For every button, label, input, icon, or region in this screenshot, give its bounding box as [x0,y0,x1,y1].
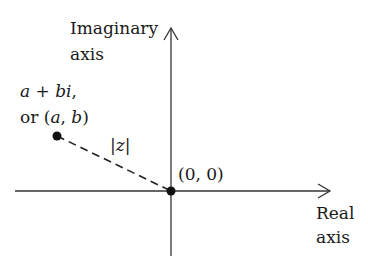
modulus-label: |z| [110,135,130,155]
point-label-plus: + [30,81,55,101]
point-label-close: ) [82,107,89,127]
point-label-line1: a + bi, [20,81,77,101]
imaginary-axis-label-line1: Imaginary [70,18,159,38]
point-label-bi: bi [55,81,71,101]
point-label-coord-a: a [50,107,60,127]
modulus-bar-right: | [125,135,131,155]
point-label-comma: , [72,81,77,101]
origin-dot [167,187,176,196]
real-axis-label-line1: Real [316,203,354,223]
complex-plane-diagram: Imaginary axis a + bi, or (a, b) |z| (0,… [0,0,368,269]
point-label-coord-b: b [71,107,82,127]
origin-label: (0, 0) [178,164,224,184]
imaginary-axis [164,28,178,256]
imaginary-axis-label-line2: axis [70,44,104,64]
point-label-a: a [20,81,30,101]
point-label-line2: or (a, b) [20,107,89,127]
point-label-or: or ( [20,107,50,127]
point-a-b-dot [53,132,62,141]
real-axis-label-line2: axis [316,227,350,247]
point-label-coord-sep: , [61,107,72,127]
